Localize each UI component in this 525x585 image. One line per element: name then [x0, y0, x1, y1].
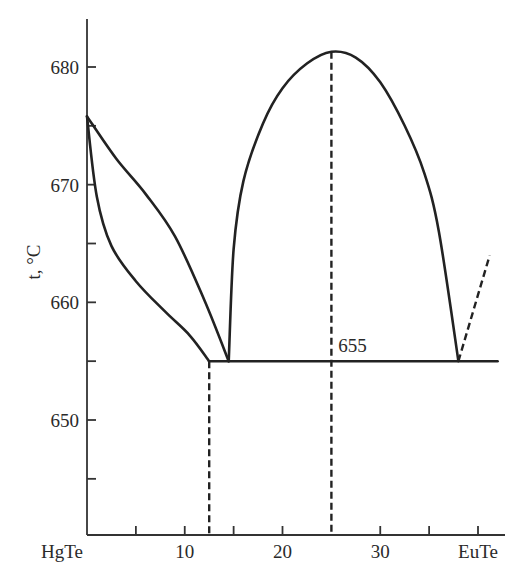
labels: 655: [338, 335, 367, 356]
x-tick-label: 20: [273, 541, 292, 562]
series-solidus-hgte-side: [87, 116, 209, 361]
y-axis-title: t, °C: [23, 244, 44, 279]
x-tick-label: 10: [175, 541, 194, 562]
series-layer: [87, 51, 498, 535]
series-liquidus-eute-side-extrapolated: [458, 255, 489, 361]
phase-diagram: 650660670680HgTe102030EuTe 655 t, °C: [0, 0, 525, 585]
series-liquidus-compound-dome: [229, 51, 459, 361]
y-tick-label: 670: [51, 175, 80, 196]
ticks: 650660670680HgTe102030EuTe: [41, 57, 498, 562]
eutectic-temperature-label: 655: [338, 335, 367, 356]
x-tick-label: 30: [371, 541, 390, 562]
x-tick-label: HgTe: [41, 541, 83, 562]
y-tick-label: 680: [51, 57, 80, 78]
y-tick-label: 660: [51, 292, 80, 313]
x-tick-label: EuTe: [458, 541, 498, 562]
axes: [87, 19, 505, 535]
y-tick-label: 650: [51, 410, 80, 431]
